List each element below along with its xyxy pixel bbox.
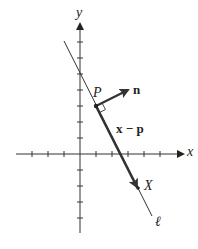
y-axis bbox=[77, 24, 83, 233]
point-x bbox=[136, 186, 140, 190]
point-x-label: X bbox=[144, 179, 153, 193]
vector-diagram bbox=[0, 0, 198, 249]
line-l-label: ℓ bbox=[155, 215, 161, 229]
y-axis-label: y bbox=[76, 6, 82, 20]
point-p-label: P bbox=[93, 86, 102, 100]
x-axis bbox=[16, 151, 183, 157]
vector-x-minus-p bbox=[96, 106, 137, 187]
vector-n-label: n bbox=[133, 83, 140, 96]
vector-x-minus-p-label: x − p bbox=[116, 122, 144, 135]
point-p bbox=[94, 104, 98, 108]
x-axis-label: x bbox=[187, 145, 193, 159]
